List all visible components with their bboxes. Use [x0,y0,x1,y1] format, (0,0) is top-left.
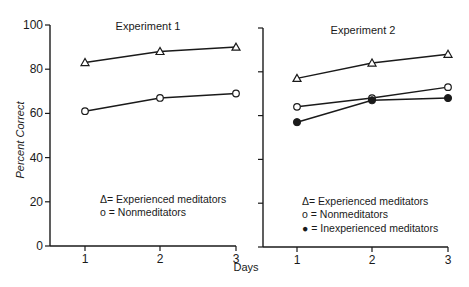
legend: Δ= Experienced meditators o = Nonmeditat… [302,195,438,234]
y-tick-label: 100 [23,18,43,32]
chart-figure: Percent Correct 020406080100 123 Experim… [0,0,469,287]
y-tick-label: 40 [30,151,44,165]
open-circle-marker [157,95,164,102]
y-tick-label: 80 [30,62,44,76]
panel-title: Experiment 2 [331,24,396,36]
legend-item-inexperienced: ● = Inexperienced meditators [302,222,438,234]
open-circle-marker [82,108,89,115]
panel-title: Experiment 1 [116,20,181,32]
series-inexperienced-meditators [293,94,451,125]
open-circle-marker [294,104,301,111]
x-tick-label: 3 [445,253,452,267]
x-tick-label: 1 [294,253,301,267]
y-axis-label: Percent Correct [14,101,26,179]
y-tick-label: 60 [30,106,44,120]
x-tick-label: 1 [82,252,89,266]
series-nonmeditators [82,90,240,114]
series-experienced-meditators [293,50,452,81]
panel-experiment-2: 123 Experiment 2 Δ= Experienced meditato… [258,24,452,267]
x-tick-label: 2 [369,253,376,267]
y-ticks: 020406080100 [23,18,50,253]
filled-circle-marker [368,97,375,104]
filled-circle-marker [293,119,300,126]
filled-circle-marker [444,94,451,101]
open-circle-marker [233,90,240,97]
y-tick-label: 0 [36,239,43,253]
triangle-marker [444,50,452,57]
series-experienced-meditators [81,43,240,65]
y-ticks [258,28,263,247]
series-group [293,50,452,125]
legend-item-experienced: Δ= Experienced meditators [302,195,428,207]
x-axis-label: Days [233,261,259,273]
x-ticks: 123 [294,247,452,267]
legend: Δ= Experienced meditators o = Nonmeditat… [100,193,226,218]
open-circle-marker [445,84,452,91]
series-group [81,43,240,114]
x-ticks: 123 [82,246,240,266]
legend-item-nonmeditators: o = Nonmeditators [100,206,186,218]
legend-item-experienced: Δ= Experienced meditators [100,193,226,205]
panel-experiment-1: 020406080100 123 Experiment 1 Δ= Experie… [23,18,240,266]
x-tick-label: 2 [157,252,164,266]
y-tick-label: 20 [30,195,44,209]
legend-item-nonmeditators: o = Nonmeditators [302,208,388,220]
